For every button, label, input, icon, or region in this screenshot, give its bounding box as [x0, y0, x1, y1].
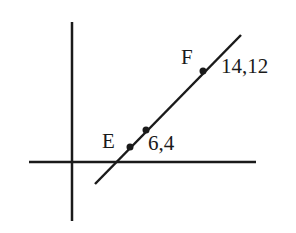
background: [0, 0, 296, 233]
point-f-dot: [200, 68, 207, 75]
point-e-label: E: [102, 129, 115, 153]
point-e-dot: [127, 144, 134, 151]
coordinate-label-6-4: 6,4: [148, 131, 175, 155]
point-f-label: F: [181, 45, 193, 69]
coordinate-label-14-12: 14,12: [221, 54, 268, 78]
coordinate-diagram: E 6,4 F 14,12: [0, 0, 296, 233]
